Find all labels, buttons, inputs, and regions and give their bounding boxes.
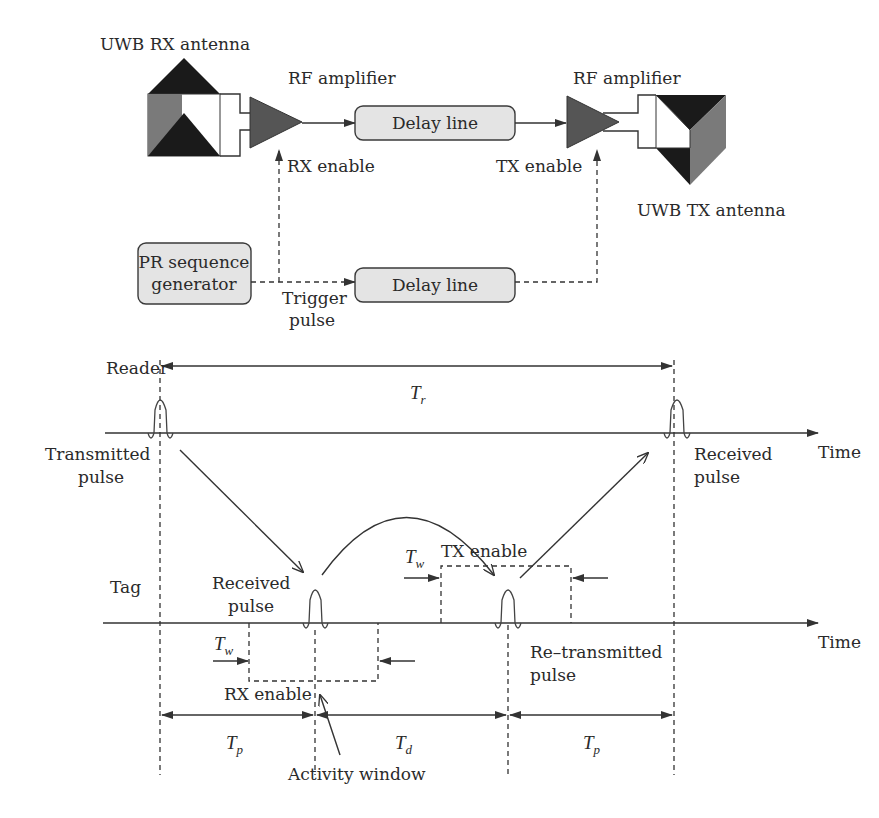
svg-text:pulse: pulse xyxy=(694,467,740,487)
svg-text:pulse: pulse xyxy=(228,596,274,616)
tr-symbol: Tr xyxy=(410,382,427,407)
retransmitted-pulse-label: Re–transmitted xyxy=(530,642,662,662)
delay-line-top-label: Delay line xyxy=(392,113,478,133)
tag-time-label: Time xyxy=(818,632,861,652)
rx-antenna-label: UWB RX antenna xyxy=(100,34,250,54)
tp-symbol-right: Tp xyxy=(583,732,601,757)
pr-sequence-generator: PR sequence generator xyxy=(138,243,251,304)
transmitted-pulse-label: Transmitted xyxy=(45,444,151,464)
activity-window-pointer xyxy=(320,695,340,755)
delay-line-bottom: Delay line xyxy=(355,268,515,302)
trigger-pulse-label: Trigger xyxy=(282,288,348,308)
td-symbol: Td xyxy=(395,732,413,757)
tx-amplifier-label: RF amplifier xyxy=(573,68,681,88)
tx-antenna-label: UWB TX antenna xyxy=(637,200,786,220)
rx-amplifier-label: RF amplifier xyxy=(288,68,396,88)
svg-text:pulse: pulse xyxy=(78,467,124,487)
rx-enable-timing-label: RX enable xyxy=(224,684,312,704)
svg-text:PR sequence: PR sequence xyxy=(139,252,250,272)
reader-time-label: Time xyxy=(818,442,861,462)
tx-enable-window xyxy=(441,566,571,623)
tw-symbol-rx: Tw xyxy=(214,633,234,658)
received-pulse-reader-label: Received xyxy=(694,444,773,464)
activity-window-label: Activity window xyxy=(287,764,426,784)
rx-amplifier-icon xyxy=(250,97,302,148)
uplink-arrow xyxy=(520,453,648,578)
uwb-tag-diagram: UWB RX antenna RF amplifier Delay line R… xyxy=(0,0,879,818)
svg-text:pulse: pulse xyxy=(289,310,335,330)
rx-antenna-icon xyxy=(148,58,258,156)
rx-enable-window xyxy=(249,623,378,681)
tx-amplifier-icon xyxy=(567,96,619,148)
rx-enable-label: RX enable xyxy=(287,156,375,176)
tx-enable-label: TX enable xyxy=(496,156,582,176)
reader-label: Reader xyxy=(106,358,169,378)
tag-label: Tag xyxy=(110,577,141,597)
received-pulse-tag-label: Received xyxy=(212,573,291,593)
tx-antenna-icon xyxy=(603,95,726,185)
tw-symbol-tx: Tw xyxy=(405,546,425,571)
delay-line-bottom-label: Delay line xyxy=(392,275,478,295)
svg-text:generator: generator xyxy=(151,274,237,294)
delay-line-top: Delay line xyxy=(355,106,515,140)
svg-text:pulse: pulse xyxy=(530,665,576,685)
tp-symbol-left: Tp xyxy=(226,732,244,757)
tx-enable-timing-label: TX enable xyxy=(441,541,527,561)
downlink-arrow xyxy=(180,450,303,572)
